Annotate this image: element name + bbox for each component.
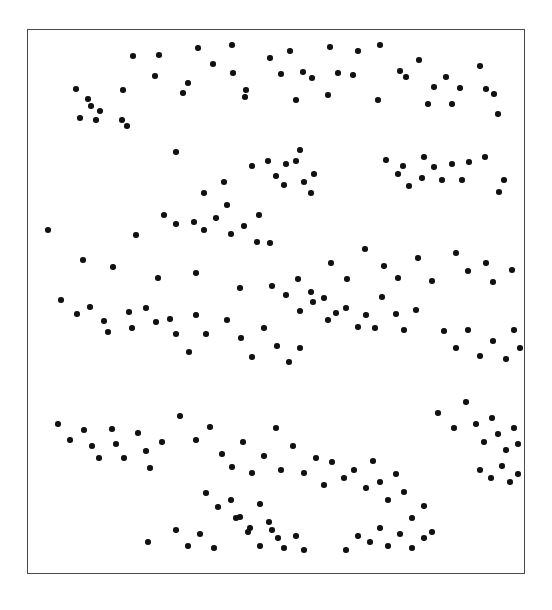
scatter-point [242, 94, 248, 100]
scatter-point [87, 304, 93, 310]
scatter-point [152, 73, 158, 79]
scatter-point [203, 490, 209, 496]
scatter-point [453, 250, 459, 256]
scatter-point [421, 503, 427, 509]
scatter-point [509, 267, 515, 273]
scatter-point [429, 278, 435, 284]
scatter-point [511, 425, 517, 431]
scatter-point [143, 305, 149, 311]
scatter-point [466, 159, 472, 165]
scatter-point [459, 177, 465, 183]
scatter-point [449, 101, 455, 107]
scatter-point [224, 317, 230, 323]
scatter-point [477, 63, 483, 69]
scatter-point [278, 467, 284, 473]
scatter-point [401, 489, 407, 495]
scatter-point [55, 421, 61, 427]
scatter-point [483, 86, 489, 92]
scatter-point [173, 149, 179, 155]
scatter-point [113, 441, 119, 447]
scatter-point [180, 90, 186, 96]
scatter-point [229, 464, 235, 470]
scatter-point [328, 260, 334, 266]
scatter-point [295, 276, 301, 282]
scatter-point [489, 415, 495, 421]
scatter-point [379, 294, 385, 300]
scatter-point [283, 161, 289, 167]
scatter-point [177, 413, 183, 419]
scatter-point [333, 310, 339, 316]
scatter-point [301, 470, 307, 476]
scatter-point [74, 311, 80, 317]
scatter-point [191, 219, 197, 225]
scatter-point [370, 458, 376, 464]
scatter-point [395, 275, 401, 281]
scatter-point [362, 246, 368, 252]
scatter-point [237, 285, 243, 291]
scatter-point [201, 190, 207, 196]
scatter-point [105, 329, 111, 335]
scatter-point [499, 463, 505, 469]
scatter-point [301, 179, 307, 185]
scatter-point [491, 91, 497, 97]
scatter-point [221, 179, 227, 185]
scatter-point [400, 163, 406, 169]
scatter-point [281, 182, 287, 188]
scatter-point [156, 52, 162, 58]
scatter-point [327, 44, 333, 50]
scatter-point [126, 309, 132, 315]
scatter-point [517, 345, 523, 351]
scatter-point [385, 543, 391, 549]
scatter-point [308, 289, 314, 295]
scatter-point [97, 108, 103, 114]
scatter-point [159, 439, 165, 445]
scatter-point [254, 239, 260, 245]
scatter-point [308, 190, 314, 196]
scatter-point [290, 443, 296, 449]
scatter-point [88, 103, 94, 109]
scatter-point [293, 533, 299, 539]
scatter-point [109, 426, 115, 432]
scatter-point [286, 359, 292, 365]
scatter-point [311, 171, 317, 177]
scatter-point [210, 61, 216, 67]
scatter-point [58, 297, 64, 303]
scatter-point [273, 173, 279, 179]
scatter-point [267, 55, 273, 61]
scatter-point [269, 527, 275, 533]
scatter-point [465, 327, 471, 333]
scatter-point [261, 453, 267, 459]
scatter-point [193, 437, 199, 443]
scatter-point [193, 312, 199, 318]
scatter-point [230, 70, 236, 76]
scatter-point [233, 515, 239, 521]
scatter-point [241, 223, 247, 229]
scatter-point [463, 399, 469, 405]
scatter-point [243, 87, 249, 93]
scatter-point [297, 345, 303, 351]
scatter-point [403, 74, 409, 80]
scatter-point [101, 318, 107, 324]
scatter-point [495, 111, 501, 117]
scatter-point [329, 459, 335, 465]
scatter-point [133, 232, 139, 238]
scatter-point [515, 441, 521, 447]
scatter-point [195, 45, 201, 51]
scatter-point [293, 97, 299, 103]
scatter-point [375, 97, 381, 103]
scatter-point [249, 470, 255, 476]
scatter-point [119, 117, 125, 123]
scatter-point [281, 545, 287, 551]
scatter-point [265, 158, 271, 164]
scatter-point [297, 147, 303, 153]
scatter-point [89, 443, 95, 449]
scatter-point [401, 327, 407, 333]
scatter-point [124, 123, 130, 129]
scatter-point [415, 255, 421, 261]
scatter-point [173, 527, 179, 533]
scatter-point [130, 53, 136, 59]
scatter-point [81, 427, 87, 433]
scatter-point [185, 80, 191, 86]
scatter-point [453, 345, 459, 351]
scatter-point [381, 263, 387, 269]
